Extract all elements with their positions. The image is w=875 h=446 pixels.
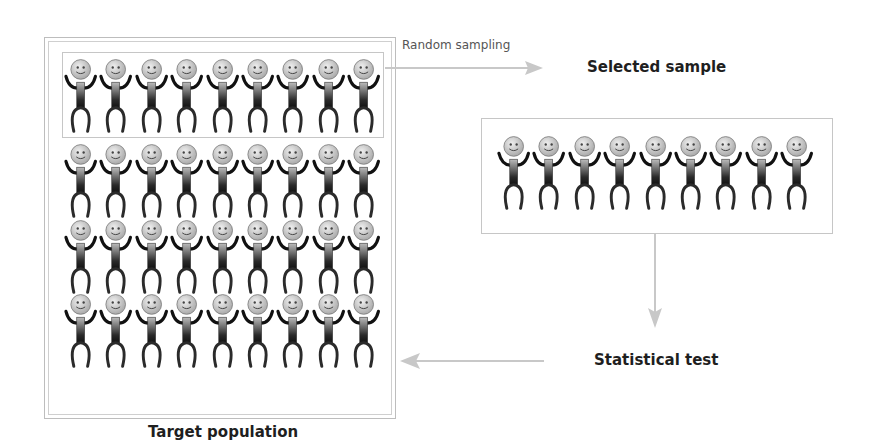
selected-sample-label: Selected sample (587, 58, 726, 76)
random-sampling-arrow (385, 61, 543, 75)
down-arrow (648, 234, 662, 328)
target-population-label: Target population (148, 423, 298, 441)
statistical-test-label: Statistical test (594, 351, 718, 369)
flow-arrows (0, 0, 875, 446)
back-arrow (400, 353, 544, 369)
random-sampling-label: Random sampling (402, 38, 510, 52)
